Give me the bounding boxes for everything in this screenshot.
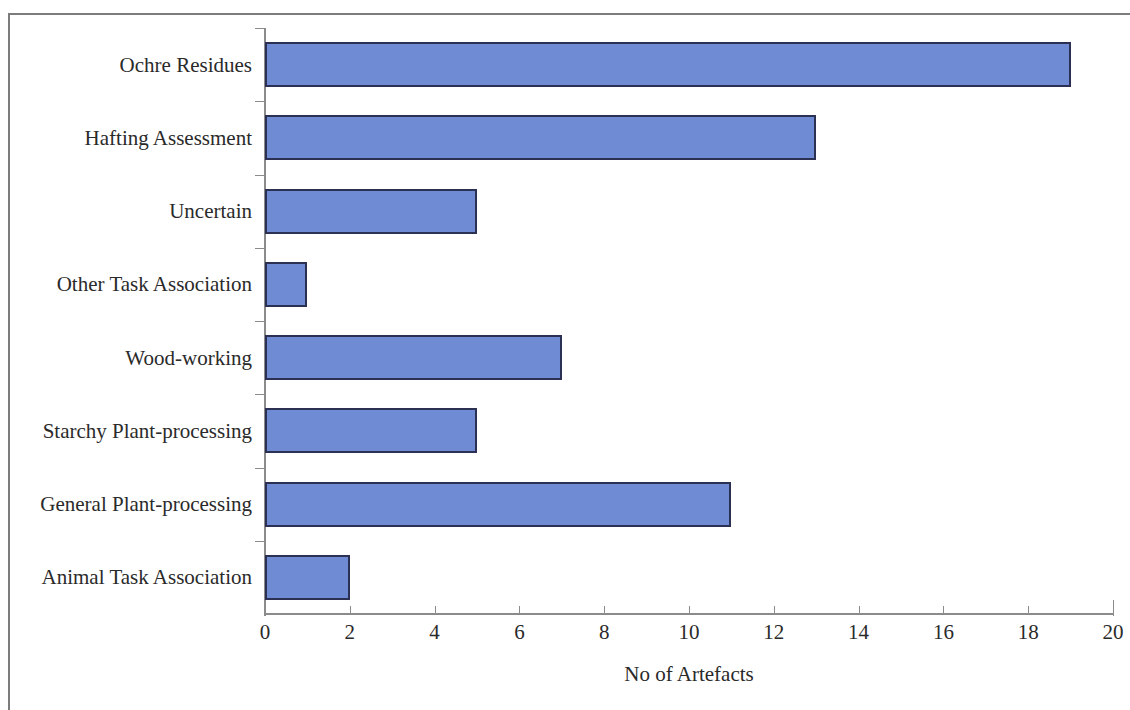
bar (265, 189, 477, 234)
x-axis-tick (265, 600, 266, 616)
bar (265, 408, 477, 453)
category-label: General Plant-processing (0, 492, 252, 516)
x-axis-tick (1113, 600, 1114, 616)
horizontal-bar-chart: Ochre ResiduesHafting AssessmentUncertai… (0, 0, 1130, 710)
y-axis-tick (255, 248, 265, 249)
bar (265, 42, 1071, 87)
category-label: Other Task Association (0, 272, 252, 296)
bar (265, 482, 731, 527)
x-axis-tick (604, 606, 605, 615)
category-label: Animal Task Association (0, 565, 252, 589)
bar (265, 262, 307, 307)
x-axis-tick-label: 14 (829, 620, 889, 644)
x-axis-tick (519, 606, 520, 615)
x-axis-tick-label: 6 (489, 620, 549, 644)
y-axis-tick (255, 468, 265, 469)
bar (265, 555, 350, 600)
bar (265, 115, 816, 160)
category-label: Uncertain (0, 199, 252, 223)
x-axis-title: No of Artefacts (265, 662, 1113, 686)
x-axis-tick-label: 16 (913, 620, 973, 644)
y-axis-tick (255, 394, 265, 395)
x-axis-tick (689, 606, 690, 615)
x-axis-tick-label: 2 (320, 620, 380, 644)
y-axis-tick (255, 101, 265, 102)
y-axis-tick (255, 541, 265, 542)
y-axis-tick (255, 175, 265, 176)
x-axis-tick-label: 4 (405, 620, 465, 644)
y-axis-tick (255, 321, 265, 322)
x-axis-tick-label: 10 (659, 620, 719, 644)
x-axis-tick (435, 606, 436, 615)
category-label: Starchy Plant-processing (0, 419, 252, 443)
x-axis-tick (350, 606, 351, 615)
x-axis-tick (774, 606, 775, 615)
x-axis-tick-label: 20 (1083, 620, 1130, 644)
bar (265, 335, 562, 380)
x-axis-tick-label: 8 (574, 620, 634, 644)
x-axis-tick-label: 18 (998, 620, 1058, 644)
x-axis-tick (859, 606, 860, 615)
category-label: Wood-working (0, 346, 252, 370)
x-axis-tick-label: 0 (235, 620, 295, 644)
x-axis-tick (1028, 606, 1029, 615)
y-axis-tick (255, 28, 265, 29)
category-label: Ochre Residues (0, 53, 252, 77)
category-label: Hafting Assessment (0, 126, 252, 150)
x-axis-tick (943, 606, 944, 615)
x-axis-tick-label: 12 (744, 620, 804, 644)
